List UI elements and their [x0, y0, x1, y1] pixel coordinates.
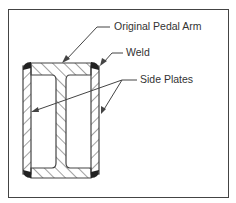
label-weld: Weld: [126, 46, 150, 58]
leader-original-pedal-arm: [62, 27, 110, 63]
label-original-pedal-arm: Original Pedal Arm: [114, 20, 202, 32]
original-pedal-arm: [31, 63, 91, 178]
label-side-plates: Side Plates: [140, 73, 193, 85]
leader-side-plates: [31, 80, 137, 114]
left-side-plate: [23, 66, 31, 174]
leader-weld: [100, 53, 123, 66]
right-side-plate: [91, 66, 99, 174]
